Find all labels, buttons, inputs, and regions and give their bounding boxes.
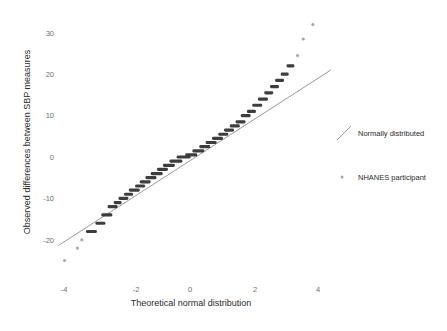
data-point-band: [281, 73, 289, 76]
x-axis-title: Theoretical normal distribution: [131, 298, 252, 308]
data-point-band: [258, 97, 268, 100]
data-point-band: [86, 230, 97, 233]
data-point-band: [135, 184, 145, 187]
data-point-band: [270, 85, 279, 88]
data-point-band: [275, 79, 284, 82]
data-point-band: [185, 153, 197, 156]
legend-label: NHANES participant: [358, 173, 427, 182]
data-point-outlier: [63, 259, 66, 262]
x-tick-label: 4: [316, 285, 320, 294]
data-point-band: [140, 180, 151, 183]
data-point-band: [101, 213, 112, 216]
data-point-outlier: [296, 54, 299, 57]
data-point-band: [241, 114, 251, 117]
data-point-band: [145, 176, 156, 179]
y-tick-label: 20: [46, 70, 54, 79]
data-point-band: [124, 193, 133, 196]
data-point-band: [230, 124, 240, 127]
y-tick-label: 0: [50, 153, 54, 162]
data-point-band: [114, 201, 122, 204]
data-point-outlier: [311, 23, 314, 26]
y-tick-label: 30: [46, 29, 54, 38]
x-tick-label: -4: [61, 285, 68, 294]
data-point-band: [206, 141, 217, 144]
data-point-band: [212, 137, 223, 140]
data-point-band: [163, 164, 175, 167]
y-tick-label: 10: [46, 111, 54, 120]
data-point-band: [286, 64, 294, 67]
plot-canvas: 30 20 10 0 -10 -20 -4 -2 0 2 4 Theoretic…: [0, 0, 447, 331]
x-tick-label: 2: [253, 285, 257, 294]
qq-plot-figure: 30 20 10 0 -10 -20 -4 -2 0 2 4 Theoretic…: [0, 0, 447, 331]
data-point-band: [118, 197, 128, 200]
data-point-band: [151, 172, 163, 175]
data-point-band: [169, 160, 182, 163]
x-tick-label: -2: [133, 285, 140, 294]
data-point-band: [264, 91, 273, 94]
data-point-band: [218, 133, 228, 136]
y-axis-title: Observed differences between SBP measure…: [22, 49, 32, 234]
data-point-outlier: [80, 238, 83, 241]
data-point-band: [129, 189, 140, 192]
data-point-outlier: [302, 37, 305, 40]
data-point-band: [192, 149, 204, 152]
x-tick-label: 0: [188, 285, 192, 294]
data-point-band: [252, 104, 262, 107]
data-point-band: [236, 120, 246, 123]
data-point-band: [108, 205, 118, 208]
data-point-band: [247, 110, 256, 113]
legend-label: Normally distributed: [358, 129, 424, 138]
data-point-band: [95, 222, 105, 225]
y-tick-label: -20: [43, 236, 54, 245]
data-point-band: [199, 145, 210, 148]
dot-glyph-icon: [341, 176, 344, 179]
figure-background: [0, 0, 447, 331]
data-point-outlier: [76, 246, 79, 249]
data-point-band: [224, 128, 234, 131]
y-tick-label: -10: [43, 194, 54, 203]
data-point-band: [157, 168, 168, 171]
